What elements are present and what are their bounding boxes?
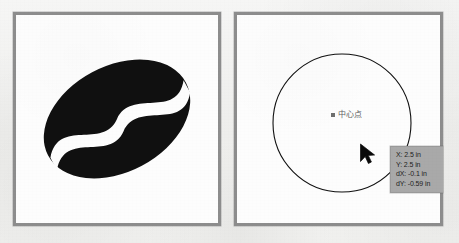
- center-snap-marker: [331, 113, 335, 117]
- dynamic-input-tooltip: X: 2.5 in Y: 2.5 in dX: -0.1 in dY: -0.5…: [390, 146, 443, 193]
- drawing-canvas: 中心点 X: 2.5 in Y: 2.5 in dX: -0.1 in dY: …: [0, 0, 459, 243]
- coffee-bean-logo[interactable]: [32, 44, 202, 194]
- arrow-cursor-glyph: [361, 144, 375, 164]
- tooltip-row-x: X: 2.5 in: [396, 150, 439, 160]
- tooltip-row-y: Y: 2.5 in: [396, 160, 439, 170]
- center-snap-label: 中心点: [338, 110, 362, 119]
- coffee-bean-artboard-surface[interactable]: [16, 15, 218, 223]
- arrow-cursor: [359, 143, 377, 165]
- center-snap-indicator: 中心点: [331, 110, 362, 119]
- coffee-bean-artboard[interactable]: [13, 12, 221, 226]
- tooltip-row-dx: dX: -0.1 in: [396, 169, 439, 179]
- tooltip-row-dy: dY: -0.59 in: [396, 179, 439, 189]
- circle-artboard[interactable]: 中心点: [234, 12, 443, 226]
